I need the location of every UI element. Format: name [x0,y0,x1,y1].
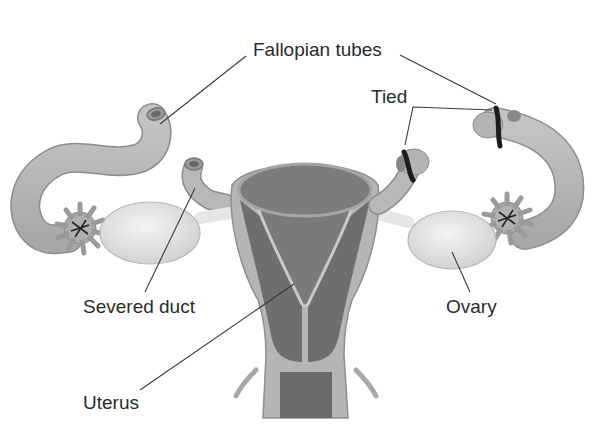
uterus [231,164,379,418]
label-fallopian-tubes: Fallopian tubes [253,40,382,59]
tie-band-right [496,108,500,146]
leader-fallopian-left [160,56,246,124]
right-tied-stub [378,149,429,205]
label-ovary: Ovary [446,297,497,316]
left-ovary [100,202,200,264]
leader-fallopian-right [400,55,496,104]
label-uterus: Uterus [83,393,139,412]
reproductive-anatomy-diagram [0,0,607,441]
right-ovary [408,211,496,269]
label-tied: Tied [371,87,407,106]
left-ovarian-ligament [200,212,236,218]
left-severed-stub [185,158,232,205]
label-severed-duct: Severed duct [83,297,195,316]
